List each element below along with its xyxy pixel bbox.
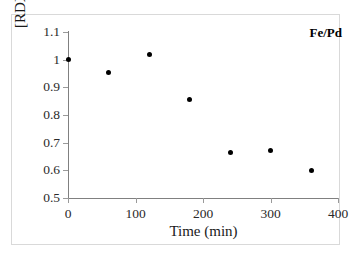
data-point xyxy=(187,97,192,102)
y-axis-tick-label: 1.1 xyxy=(43,25,60,39)
y-axis-title: [RDX] / [RDX]0 xyxy=(13,0,31,48)
x-axis-title: Time (min) xyxy=(68,223,339,240)
series-annotation-label: Fe/Pd xyxy=(310,26,343,39)
x-axis-tick-label: 0 xyxy=(65,207,72,221)
y-axis-tick xyxy=(63,32,68,33)
x-axis-tick xyxy=(68,198,69,203)
x-axis-tick-label: 300 xyxy=(260,207,280,221)
data-point xyxy=(66,57,71,62)
chart-figure: [RDX] / [RDX]0 Time (min) Fe/Pd 0.50.60.… xyxy=(0,0,360,259)
data-point xyxy=(268,148,273,153)
data-point xyxy=(106,70,111,75)
y-axis-tick-label: 0.8 xyxy=(43,108,60,122)
y-axis-tick xyxy=(63,170,68,171)
y-axis-tick-label: 0.5 xyxy=(43,191,60,205)
data-point xyxy=(147,52,152,57)
y-axis-tick-label: 1 xyxy=(53,53,60,67)
x-axis-tick xyxy=(271,198,272,203)
x-axis-tick-label: 100 xyxy=(125,207,145,221)
x-axis-tick xyxy=(338,198,339,203)
x-axis-tick-label: 400 xyxy=(328,207,348,221)
data-point xyxy=(309,168,314,173)
y-axis-tick-label: 0.6 xyxy=(43,163,60,177)
y-axis-tick xyxy=(63,143,68,144)
x-axis-tick-label: 200 xyxy=(193,207,213,221)
y-axis-tick xyxy=(63,115,68,116)
x-axis-tick xyxy=(136,198,137,203)
x-axis-tick xyxy=(203,198,204,203)
y-axis-tick-label: 0.7 xyxy=(43,136,60,150)
data-point xyxy=(228,150,233,155)
y-axis-tick xyxy=(63,87,68,88)
plot-area xyxy=(68,32,338,198)
y-axis-title-text: [RDX] / [RDX] xyxy=(12,0,28,28)
y-axis-tick-label: 0.9 xyxy=(43,80,60,94)
